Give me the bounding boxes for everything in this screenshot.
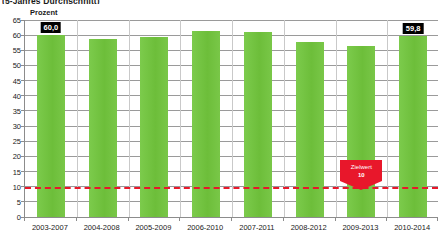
x-axis-tick-label: 2003-2007: [32, 223, 68, 232]
zielwert-annotation-body: Zielwert10: [340, 160, 382, 181]
y-axis-tick-label: 15: [1, 167, 21, 176]
x-axis-tick-label: 2007-2011: [239, 223, 274, 232]
y-axis-tick-labels: 05101520253035404550556065: [0, 20, 21, 217]
bar-2003-2007[interactable]: [37, 35, 65, 217]
x-axis-tick-label: 2005-2009: [135, 223, 171, 232]
x-axis-tick-mark: [24, 217, 25, 221]
x-axis-tick-mark: [283, 217, 284, 221]
y-axis-caption: Prozent: [30, 8, 58, 17]
x-axis-tick-label: 2010-2014: [394, 223, 430, 232]
y-axis-tick-label: 0: [1, 213, 21, 222]
y-axis-tick-label: 10: [1, 182, 21, 191]
bar-2006-2010[interactable]: [192, 31, 220, 217]
bar-2008-2012[interactable]: [296, 42, 324, 217]
chart-root: (5-Jahres Durchschnitt) Prozent 05101520…: [0, 0, 444, 237]
value-label-2010-2014: 59,8: [403, 23, 424, 34]
x-axis-tick-mark: [179, 217, 180, 221]
x-axis-tick-label: 2006-2010: [187, 223, 223, 232]
chart-headline: (5-Jahres Durchschnitt): [2, 0, 100, 4]
y-axis-tick-label: 30: [1, 122, 21, 131]
bar-2005-2009[interactable]: [140, 37, 168, 217]
plot-inner: Zielwert1060,059,8: [25, 20, 438, 217]
y-axis-tick-label: 60: [1, 31, 21, 40]
x-axis-tick-mark: [231, 217, 232, 221]
y-axis-tick-label: 20: [1, 152, 21, 161]
x-axis-tick-mark: [128, 217, 129, 221]
y-axis-tick-label: 55: [1, 46, 21, 55]
zielwert-pointer: [340, 181, 382, 190]
x-axis-tick-mark: [386, 217, 387, 221]
bar-2010-2014[interactable]: [399, 36, 427, 217]
x-axis-tick-label: 2009-2013: [342, 223, 378, 232]
bar-2007-2011[interactable]: [244, 32, 272, 217]
x-axis: 2003-20072004-20082005-20092006-20102007…: [24, 217, 438, 237]
y-axis-tick-label: 35: [1, 106, 21, 115]
plot-area: Zielwert1060,059,8: [24, 20, 438, 217]
y-axis-tick-label: 50: [1, 61, 21, 70]
value-label-2003-2007: 60,0: [41, 22, 62, 33]
zielwert-label: Zielwert: [351, 164, 372, 170]
y-axis-tick-label: 25: [1, 137, 21, 146]
x-axis-tick-label: 2004-2008: [84, 223, 120, 232]
bar-2004-2008[interactable]: [89, 39, 117, 217]
x-axis-tick-mark: [437, 217, 438, 221]
x-axis-tick-mark: [76, 217, 77, 221]
y-axis-tick-label: 65: [1, 16, 21, 25]
x-axis-tick-mark: [335, 217, 336, 221]
y-axis-tick-label: 40: [1, 91, 21, 100]
zielwert-annotation: Zielwert10: [340, 160, 382, 190]
y-axis-tick-label: 5: [1, 197, 21, 206]
bar-2009-2013[interactable]: [347, 46, 375, 217]
zielwert-value: 10: [340, 171, 382, 179]
y-axis-tick-label: 45: [1, 76, 21, 85]
x-axis-tick-label: 2008-2012: [291, 223, 327, 232]
